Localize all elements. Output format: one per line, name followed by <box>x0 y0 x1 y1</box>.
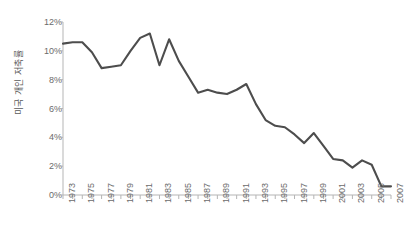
x-axis-tick-labels: 1973197519771979198119831985198719891991… <box>0 0 409 252</box>
x-tick-label: 1977 <box>106 183 116 203</box>
x-tick-label: 2003 <box>356 183 366 203</box>
x-tick-label: 1993 <box>260 183 270 203</box>
x-tick-label: 1999 <box>318 183 328 203</box>
x-tick-label: 2007 <box>395 183 405 203</box>
x-tick-label: 2001 <box>337 183 347 203</box>
x-tick-label: 1991 <box>241 183 251 203</box>
x-tick-label: 1985 <box>183 183 193 203</box>
x-tick-label: 1997 <box>299 183 309 203</box>
x-tick-label: 1983 <box>163 183 173 203</box>
x-tick-label: 1979 <box>125 183 135 203</box>
savings-rate-line-chart: 미국 개인 저축률 12%10%8%6%4%2%0% 1973197519771… <box>0 0 409 252</box>
x-tick-label: 1973 <box>67 183 77 203</box>
x-tick-label: 2005 <box>376 183 386 203</box>
x-tick-label: 1975 <box>86 183 96 203</box>
x-tick-label: 1989 <box>221 183 231 203</box>
x-tick-label: 1995 <box>279 183 289 203</box>
x-tick-label: 1981 <box>144 183 154 203</box>
x-tick-label: 1987 <box>202 183 212 203</box>
